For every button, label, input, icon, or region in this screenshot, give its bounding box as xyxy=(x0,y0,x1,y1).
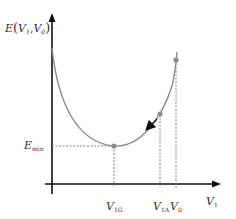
energy-curve xyxy=(52,48,177,146)
tick-v1g: V1G xyxy=(106,200,123,213)
v1a-point xyxy=(157,111,162,116)
y-axis-label: E(V1,V0) xyxy=(4,20,50,35)
tick-v0: V0 xyxy=(170,200,182,213)
x-axis-arrowhead xyxy=(212,181,221,188)
tick-v1a: V1A xyxy=(153,200,170,213)
x-axis-label: V1 xyxy=(206,195,218,208)
energy-diagram: E(V1,V0) Emin V1G V1A V0 V1 xyxy=(0,0,236,219)
minimum-point xyxy=(111,143,116,148)
v0-point xyxy=(173,57,178,62)
emin-label: Emin xyxy=(23,139,44,152)
descent-arrow xyxy=(147,119,157,129)
